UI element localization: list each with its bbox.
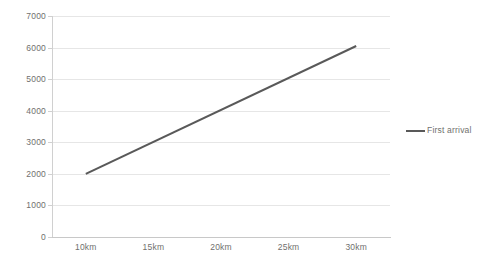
gridline-6000 [52, 48, 390, 49]
y-tick-label-6000: 6000 [2, 44, 46, 53]
y-tick-mark [48, 237, 52, 238]
gridline-2000 [52, 174, 390, 175]
x-tick-label-20km: 20km [191, 243, 251, 252]
gridline-4000 [52, 111, 390, 112]
y-tick-label-5000: 5000 [2, 75, 46, 84]
y-tick-mark [48, 111, 52, 112]
y-tick-label-4000: 4000 [2, 107, 46, 116]
gridline-5000 [52, 79, 390, 80]
x-tick-label-15km: 15km [123, 243, 183, 252]
line-chart: 7000 6000 5000 4000 3000 2000 1000 0 10k… [0, 0, 497, 270]
gridline-7000 [52, 16, 390, 17]
y-tick-mark [48, 142, 52, 143]
gridline-3000 [52, 142, 390, 143]
y-axis-labels: 7000 6000 5000 4000 3000 2000 1000 0 [0, 0, 46, 270]
y-tick-mark [48, 48, 52, 49]
legend-label-first-arrival: First arrival [427, 126, 472, 135]
y-tick-mark [48, 174, 52, 175]
legend-marker-first-arrival [406, 130, 425, 132]
plot-area [52, 16, 390, 237]
y-axis-line [52, 16, 53, 238]
y-tick-label-1000: 1000 [2, 201, 46, 210]
y-tick-label-3000: 3000 [2, 138, 46, 147]
x-axis-line [52, 237, 391, 238]
chart-legend: First arrival [406, 126, 472, 135]
y-tick-label-0: 0 [2, 233, 46, 242]
y-tick-mark [48, 205, 52, 206]
gridline-1000 [52, 205, 390, 206]
x-tick-label-10km: 10km [56, 243, 116, 252]
y-tick-label-2000: 2000 [2, 170, 46, 179]
x-tick-label-25km: 25km [259, 243, 319, 252]
y-tick-label-7000: 7000 [2, 12, 46, 21]
y-tick-mark [48, 79, 52, 80]
x-tick-label-30km: 30km [326, 243, 386, 252]
y-tick-mark [48, 16, 52, 17]
